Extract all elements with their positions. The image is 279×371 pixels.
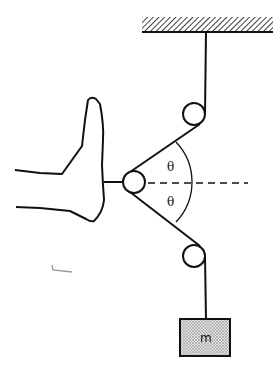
traction-diagram: m θ θ [0, 0, 279, 371]
pulley-foot [123, 171, 145, 193]
angle-arc [176, 142, 192, 222]
theta-lower-label: θ [167, 195, 174, 209]
ceiling [142, 17, 273, 32]
rope-ceiling [205, 32, 206, 114]
rope-mass [205, 256, 206, 319]
mass-label: m [200, 331, 212, 345]
stray-mark [52, 265, 72, 272]
pulley-top [183, 103, 205, 125]
pulley-bottom [183, 245, 205, 267]
theta-upper-label: θ [167, 160, 174, 174]
foot-outline [15, 98, 104, 222]
